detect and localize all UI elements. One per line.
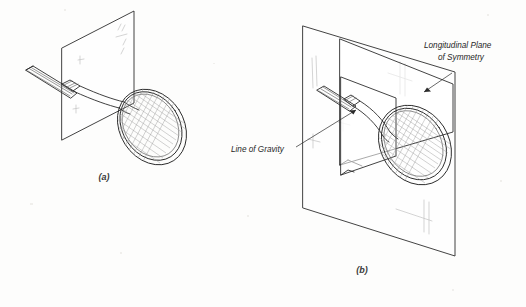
panel-b-caption: (b) [356, 265, 368, 275]
panel-b: Line of Gravity Longitudinal Plane of Sy… [231, 26, 492, 275]
panel-a-plane [62, 11, 134, 140]
longitudinal-plane-label-line2: of Symmetry [438, 53, 485, 62]
figure-page: (a) [0, 0, 526, 307]
illustration-canvas: (a) [0, 0, 526, 307]
longitudinal-plane-label-line1: Longitudinal Plane [424, 41, 492, 50]
line-of-gravity-label: Line of Gravity [231, 145, 285, 154]
panel-a: (a) [26, 11, 201, 182]
panel-a-caption: (a) [99, 172, 110, 182]
